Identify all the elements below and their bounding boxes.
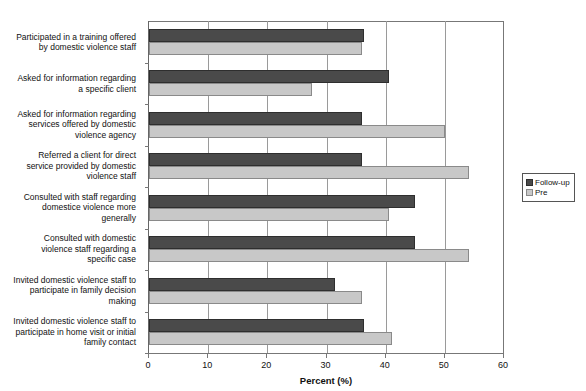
bar-group xyxy=(149,312,503,354)
legend-item-pre[interactable]: Pre xyxy=(526,188,570,197)
bar-group xyxy=(149,270,503,312)
category-label: Participated in a training offeredby dom… xyxy=(0,31,136,52)
bar-follow-up xyxy=(149,153,362,166)
bar-pre xyxy=(149,125,445,138)
x-tick-0 xyxy=(148,353,149,358)
x-tick-30 xyxy=(326,353,327,358)
legend-label: Follow-up xyxy=(535,178,570,187)
category-label: Asked for information regardinga specifi… xyxy=(0,73,136,94)
bar-follow-up xyxy=(149,29,364,42)
bar-pre xyxy=(149,42,362,55)
bar-follow-up xyxy=(149,70,389,83)
legend-swatch-followup-icon xyxy=(526,179,533,186)
bar-pre xyxy=(149,291,362,304)
bar-pre xyxy=(149,249,469,262)
category-label: Invited domestic violence staff topartic… xyxy=(0,275,136,307)
x-tick-label-40: 40 xyxy=(380,360,390,370)
bar-follow-up xyxy=(149,195,415,208)
bar-chart: Participated in a training offeredby dom… xyxy=(0,0,586,391)
legend-item-followup[interactable]: Follow-up xyxy=(526,178,570,187)
x-tick-label-10: 10 xyxy=(202,360,212,370)
plot-area xyxy=(148,21,503,353)
x-tick-10 xyxy=(207,353,208,358)
x-tick-label-60: 60 xyxy=(498,360,508,370)
category-label: Consulted with domesticviolence staff re… xyxy=(0,234,136,266)
bar-pre xyxy=(149,332,392,345)
bar-group xyxy=(149,63,503,105)
x-tick-20 xyxy=(266,353,267,358)
x-tick-50 xyxy=(444,353,445,358)
legend-swatch-pre-icon xyxy=(526,189,533,196)
bar-group xyxy=(149,229,503,271)
bar-follow-up xyxy=(149,319,364,332)
bar-follow-up xyxy=(149,236,415,249)
chart-legend: Follow-upPre xyxy=(522,173,575,202)
bar-pre xyxy=(149,83,312,96)
plot-frame-right xyxy=(503,21,504,354)
x-tick-60 xyxy=(503,353,504,358)
category-axis-labels: Participated in a training offeredby dom… xyxy=(0,21,144,353)
x-tick-label-50: 50 xyxy=(439,360,449,370)
category-label: Consulted with staff regardingdomestice … xyxy=(0,192,136,224)
x-axis-title: Percent (%) xyxy=(148,375,504,386)
bar-pre xyxy=(149,208,389,221)
bar-group xyxy=(149,104,503,146)
bar-follow-up xyxy=(149,278,335,291)
x-tick-label-0: 0 xyxy=(145,360,150,370)
bar-group xyxy=(149,146,503,188)
bar-group xyxy=(149,21,503,63)
x-tick-label-30: 30 xyxy=(320,360,330,370)
x-tick-40 xyxy=(385,353,386,358)
bar-follow-up xyxy=(149,112,362,125)
category-label: Invited domestic violence staff topartic… xyxy=(0,317,136,349)
legend-label: Pre xyxy=(535,188,547,197)
category-label: Asked for information regardingservices … xyxy=(0,109,136,141)
x-tick-label-20: 20 xyxy=(261,360,271,370)
bar-pre xyxy=(149,166,469,179)
category-label: Referred a client for directservice prov… xyxy=(0,151,136,183)
bar-group xyxy=(149,187,503,229)
